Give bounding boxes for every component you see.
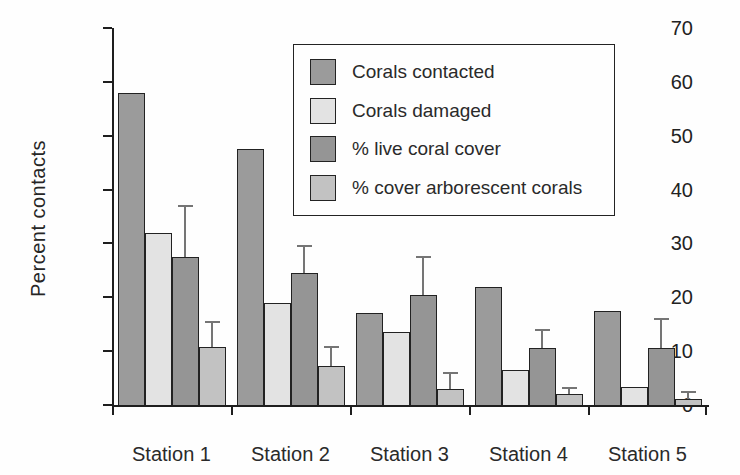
- error-bar-stem-station2-series3: [303, 246, 305, 273]
- legend-label-corals-damaged: Corals damaged: [352, 100, 491, 122]
- error-bar-cap-station3-series3: [416, 256, 431, 258]
- y-tick-label-30: 30: [643, 232, 693, 255]
- error-bar-stem-station5-series3: [660, 319, 662, 349]
- bar-station4-series2: [502, 370, 529, 405]
- bar-station4-series4: [556, 394, 583, 405]
- x-tick-4: [588, 407, 590, 415]
- y-tick-50: [103, 135, 112, 137]
- bar-station4-series3: [529, 348, 556, 405]
- y-tick-label-70: 70: [643, 17, 693, 40]
- y-axis-line: [112, 28, 114, 407]
- error-bar-stem-station3-series4: [449, 373, 451, 389]
- y-tick-40: [103, 189, 112, 191]
- bar-station3-series2: [383, 332, 410, 405]
- error-bar-cap-station5-series4: [681, 391, 696, 393]
- error-bar-cap-station4-series3: [535, 329, 550, 331]
- x-label-station-5: Station 5: [588, 443, 707, 466]
- x-label-station-4: Station 4: [469, 443, 588, 466]
- y-tick-30: [103, 242, 112, 244]
- legend-row: Corals contacted: [310, 59, 614, 85]
- error-bar-cap-station4-series4: [562, 387, 577, 389]
- bar-station3-series4: [437, 389, 464, 405]
- legend-label-corals-contacted: Corals contacted: [352, 61, 495, 83]
- bar-station5-series4: [675, 399, 702, 405]
- error-bar-stem-station1-series4: [211, 322, 213, 348]
- legend-row: % cover arborescent corals: [310, 175, 614, 201]
- y-tick-label-50: 50: [643, 124, 693, 147]
- bar-station3-series1: [356, 313, 383, 405]
- y-tick-10: [103, 350, 112, 352]
- legend-row: Corals damaged: [310, 98, 614, 124]
- legend-swatch-cover-arborescent: [310, 175, 336, 201]
- y-tick-0: [103, 404, 112, 406]
- x-label-station-3: Station 3: [350, 443, 469, 466]
- bar-chart-figure: Percent contacts 010203040506070 Station…: [0, 0, 740, 475]
- y-tick-label-40: 40: [643, 178, 693, 201]
- error-bar-stem-station2-series4: [330, 347, 332, 366]
- bar-station5-series3: [648, 348, 675, 405]
- error-bar-stem-station1-series3: [184, 206, 186, 257]
- bar-station1-series3: [172, 257, 199, 405]
- error-bar-stem-station4-series3: [541, 330, 543, 349]
- bar-station2-series2: [264, 303, 291, 405]
- legend-box: Corals contacted Corals damaged % live c…: [293, 44, 615, 216]
- error-bar-cap-station2-series3: [297, 245, 312, 247]
- y-tick-label-60: 60: [643, 70, 693, 93]
- error-bar-cap-station5-series3: [654, 318, 669, 320]
- legend-swatch-live-coral-cover: [310, 136, 336, 162]
- error-bar-cap-station1-series3: [178, 205, 193, 207]
- legend-label-live-coral-cover: % live coral cover: [352, 138, 501, 160]
- bar-station2-series1: [237, 149, 264, 405]
- x-tick-0: [112, 407, 114, 415]
- y-tick-label-20: 20: [643, 286, 693, 309]
- y-tick-70: [103, 27, 112, 29]
- legend-swatch-corals-contacted: [310, 59, 336, 85]
- bar-station1-series4: [199, 347, 226, 405]
- error-bar-cap-station2-series4: [324, 346, 339, 348]
- bar-station1-series2: [145, 233, 172, 405]
- bar-station5-series1: [594, 311, 621, 405]
- bar-station1-series1: [118, 93, 145, 405]
- y-tick-60: [103, 81, 112, 83]
- bar-station2-series4: [318, 366, 345, 405]
- error-bar-cap-station1-series4: [205, 321, 220, 323]
- x-tick-2: [350, 407, 352, 415]
- error-bar-stem-station3-series3: [422, 257, 424, 295]
- bar-station2-series3: [291, 273, 318, 405]
- y-axis-title: Percent contacts: [27, 119, 50, 319]
- x-tick-3: [469, 407, 471, 415]
- legend-swatch-corals-damaged: [310, 98, 336, 124]
- bar-station5-series2: [621, 387, 648, 405]
- x-tick-5: [705, 407, 707, 415]
- x-tick-1: [231, 407, 233, 415]
- legend-row: % live coral cover: [310, 136, 614, 162]
- x-label-station-2: Station 2: [231, 443, 350, 466]
- x-label-station-1: Station 1: [112, 443, 231, 466]
- legend-label-cover-arborescent: % cover arborescent corals: [352, 177, 582, 199]
- bar-station4-series1: [475, 287, 502, 405]
- bar-station3-series3: [410, 295, 437, 405]
- y-tick-20: [103, 296, 112, 298]
- error-bar-cap-station3-series4: [443, 372, 458, 374]
- error-bar-stem-station5-series4: [687, 392, 689, 399]
- x-axis-line: [112, 405, 709, 407]
